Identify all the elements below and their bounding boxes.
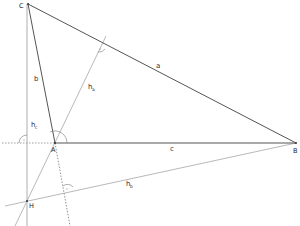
triangle-diagram: C A B H a b c h c h a h b xyxy=(0,0,300,226)
orthocenter-h-label: H xyxy=(29,202,34,210)
right-angle-dot-hc xyxy=(23,139,24,140)
right-angle-dot-ha xyxy=(99,48,100,49)
vertex-a-point xyxy=(54,142,56,144)
vertex-c-point xyxy=(27,3,29,5)
side-c-label: c xyxy=(170,145,174,153)
altitude-ha xyxy=(15,36,106,226)
side-a xyxy=(28,4,296,143)
vertex-a-label: A xyxy=(51,146,56,154)
side-a-label: a xyxy=(156,62,160,70)
altitude-ha-sub: a xyxy=(92,87,95,92)
right-angle-marker-hb xyxy=(63,184,73,187)
vertex-c-label: C xyxy=(19,2,24,10)
orthocenter-h-point xyxy=(26,200,28,202)
side-b-label: b xyxy=(34,75,39,83)
altitude-hb-sub: b xyxy=(130,184,133,189)
altitude-hc-sub: c xyxy=(35,125,38,130)
altitude-hb xyxy=(5,143,296,206)
vertex-b-point xyxy=(295,142,297,144)
right-angle-dot-hb xyxy=(66,188,67,189)
vertex-b-label: B xyxy=(293,147,297,155)
right-angle-marker-hc xyxy=(19,135,27,143)
